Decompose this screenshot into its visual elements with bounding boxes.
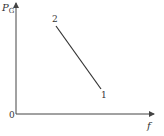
y-axis-label: PG — [1, 2, 15, 15]
diagram-canvas: PG f 0 2 1 — [0, 0, 164, 136]
point-label-1: 1 — [101, 90, 107, 100]
process-line — [56, 26, 101, 89]
point-label-2: 2 — [52, 14, 58, 24]
x-axis-label: f — [146, 120, 153, 131]
origin-label: 0 — [9, 110, 15, 120]
